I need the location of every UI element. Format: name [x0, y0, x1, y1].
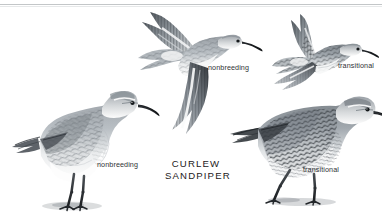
caption-standing-transitional: transitional — [303, 166, 339, 173]
species-title: CURLEW SANDPIPER — [165, 158, 227, 181]
field-guide-plate: nonbreeding nonbreeding transitional tra… — [0, 0, 382, 215]
species-title-line1: CURLEW — [165, 158, 227, 170]
top-rule — [0, 4, 382, 5]
caption-flying-transitional: transitional — [338, 62, 374, 69]
caption-standing-nonbreeding: nonbreeding — [97, 161, 138, 168]
species-title-line2: SANDPIPER — [165, 170, 227, 182]
figure-flying-transitional — [272, 12, 380, 92]
figure-standing-transitional — [228, 98, 380, 210]
caption-flying-nonbreeding: nonbreeding — [208, 64, 249, 71]
